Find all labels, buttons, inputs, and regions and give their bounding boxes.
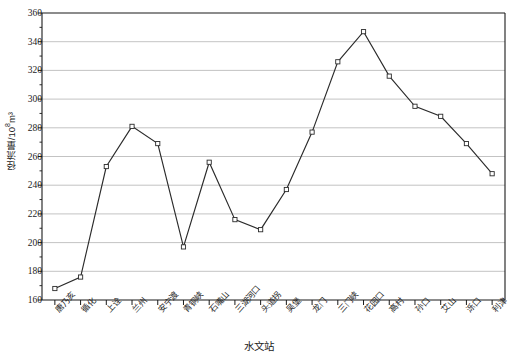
- data-point-marker: [387, 74, 391, 78]
- data-point-marker: [130, 124, 134, 128]
- data-point-marker: [156, 141, 160, 145]
- x-axis-title: 水文站: [0, 338, 517, 353]
- data-point-marker: [104, 164, 108, 168]
- runoff-line-chart: 径流量/108m³ 160180200220240260280300320340…: [0, 0, 517, 363]
- data-point-marker: [464, 141, 468, 145]
- data-point-marker: [259, 228, 263, 232]
- data-point-marker: [53, 286, 57, 290]
- data-point-marker: [413, 104, 417, 108]
- data-point-marker: [310, 130, 314, 134]
- plot-area: [0, 0, 517, 363]
- data-point-marker: [439, 114, 443, 118]
- data-point-marker: [361, 30, 365, 34]
- data-point-marker: [181, 245, 185, 249]
- data-point-marker: [78, 275, 82, 279]
- data-point-marker: [207, 160, 211, 164]
- data-point-marker: [284, 187, 288, 191]
- data-point-marker: [490, 172, 494, 176]
- data-point-marker: [233, 218, 237, 222]
- data-point-marker: [336, 60, 340, 64]
